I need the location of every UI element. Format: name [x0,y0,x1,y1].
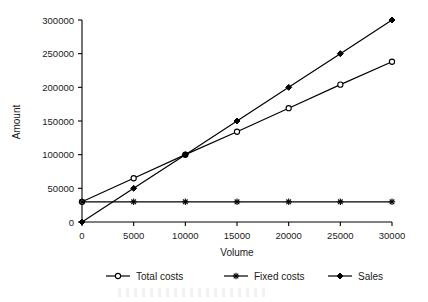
chart-container: 050000100000150000200000250000300000 050… [0,0,428,302]
legend-item-sales[interactable]: Sales [328,271,383,282]
x-tick-label: 30000 [379,230,405,241]
legend-label: Fixed costs [254,271,305,282]
marker-filled-diamond [79,219,85,225]
scan-artifact [118,288,268,297]
y-tick-label: 50000 [48,183,74,194]
marker-open-circle [338,82,343,87]
marker-open-circle [131,176,136,181]
marker-open-circle [234,129,239,134]
series-total-costs [79,59,394,204]
series-layer [79,17,395,225]
marker-star [337,199,343,205]
y-tick-label: 250000 [42,48,74,59]
marker-filled-diamond [131,185,137,191]
legend-item-total-costs[interactable]: Total costs [106,271,183,282]
marker-filled-diamond [234,118,240,124]
x-tick-label: 15000 [224,230,250,241]
y-axis: 050000100000150000200000250000300000 [42,15,82,228]
marker-star [234,199,240,205]
marker-filled-diamond [286,84,292,90]
marker-open-circle [389,59,394,64]
legend-item-fixed-costs[interactable]: Fixed costs [224,271,305,282]
breakeven-line-chart: 050000100000150000200000250000300000 050… [0,0,428,302]
legend-label: Total costs [136,271,183,282]
legend-label: Sales [358,271,383,282]
y-tick-label: 150000 [42,116,74,127]
marker-open-circle [115,273,120,278]
x-axis-title: Volume [220,247,254,258]
marker-star [233,273,239,279]
marker-filled-diamond [389,17,395,23]
x-axis: 050001000015000200002500030000 [79,222,405,241]
y-tick-label: 0 [69,217,74,228]
marker-star [182,199,188,205]
marker-star [79,199,85,205]
x-tick-label: 10000 [172,230,198,241]
y-axis-title: Amount [11,105,22,140]
marker-filled-diamond [337,51,343,57]
marker-filled-diamond [337,273,343,279]
marker-star [130,199,136,205]
chart-legend: Total costsFixed costsSales [106,271,383,282]
marker-star [285,199,291,205]
x-tick-label: 20000 [275,230,301,241]
series-sales [79,17,395,225]
x-tick-label: 25000 [327,230,353,241]
x-tick-label: 5000 [123,230,144,241]
y-tick-label: 300000 [42,15,74,26]
x-tick-label: 0 [79,230,84,241]
series-fixed-costs [79,199,395,205]
marker-open-circle [286,106,291,111]
marker-star [389,199,395,205]
y-tick-label: 100000 [42,149,74,160]
y-tick-label: 200000 [42,82,74,93]
